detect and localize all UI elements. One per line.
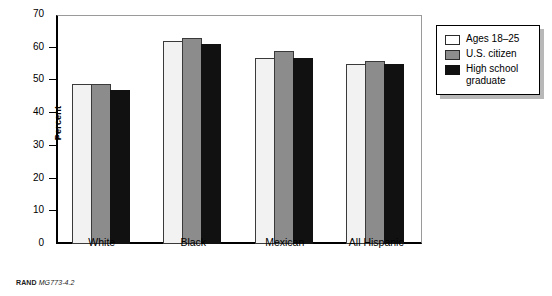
y-axis-tick-label: 10 — [33, 204, 44, 215]
legend: Ages 18–25U.S. citizenHigh school gradua… — [436, 25, 540, 95]
y-axis-tick-label: 40 — [33, 106, 44, 117]
y-axis-tick-mark — [49, 178, 56, 179]
y-axis-tick-mark — [49, 79, 56, 80]
x-axis-category-label: All Hispanic — [316, 236, 436, 248]
bar — [110, 90, 130, 244]
y-axis-tick-label: 70 — [33, 8, 44, 19]
bar — [274, 51, 294, 244]
footer-source: RAND — [16, 279, 37, 286]
bar — [293, 58, 313, 244]
y-axis-tick-mark — [49, 47, 56, 48]
bar — [91, 84, 111, 244]
bar-cluster — [72, 15, 130, 244]
bar-cluster — [346, 15, 404, 244]
legend-item-label: U.S. citizen — [466, 48, 517, 60]
bar — [255, 58, 275, 244]
y-axis-tick-mark — [49, 112, 56, 113]
bar-group — [331, 15, 423, 244]
legend-swatch — [445, 65, 460, 75]
legend-item: U.S. citizen — [445, 48, 533, 60]
y-axis-tick-label: 20 — [33, 172, 44, 183]
bar-group — [148, 15, 240, 244]
bar-group — [56, 15, 148, 244]
legend-item-label: High school graduate — [466, 63, 518, 86]
bar-cluster — [163, 15, 221, 244]
footer-document-id: MG773-4.2 — [39, 279, 75, 286]
legend-swatch — [445, 35, 460, 45]
y-axis-tick-mark — [49, 210, 56, 211]
bar — [182, 38, 202, 244]
y-axis-tick-label: 30 — [33, 139, 44, 150]
legend-swatch — [445, 50, 460, 60]
y-axis-tick-mark — [49, 145, 56, 146]
bar — [163, 41, 183, 244]
bar — [384, 64, 404, 244]
figure-footer: RAND MG773-4.2 — [16, 279, 75, 286]
bar — [201, 44, 221, 244]
bar — [72, 84, 92, 244]
legend-item: High school graduate — [445, 63, 533, 86]
bar-chart-figure: Percent 010203040506070 WhiteBlackMexica… — [0, 0, 552, 296]
bar-cluster — [255, 15, 313, 244]
legend-item-label: Ages 18–25 — [466, 33, 519, 45]
bar-group — [239, 15, 331, 244]
bar — [346, 64, 366, 244]
y-axis-tick-label: 50 — [33, 73, 44, 84]
bar — [365, 61, 385, 244]
legend-item: Ages 18–25 — [445, 33, 533, 45]
y-axis-tick-label: 60 — [33, 41, 44, 52]
